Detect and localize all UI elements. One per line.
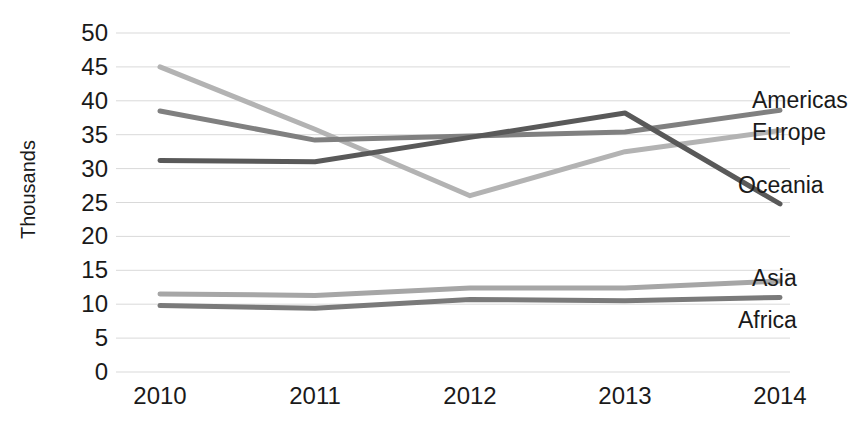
x-axis-tick-2012: 2012 (443, 382, 496, 410)
x-axis-tick-2011: 2011 (289, 382, 341, 410)
series-label-americas: Americas (752, 87, 848, 114)
series-label-asia: Asia (752, 265, 797, 292)
x-axis-tick-labels: 20102011201220132014 (0, 382, 840, 422)
x-axis-tick-2010: 2010 (133, 382, 186, 410)
x-axis-tick-2013: 2013 (598, 382, 651, 410)
series-label-oceania: Oceania (738, 172, 824, 199)
series-line-asia (160, 281, 780, 295)
series-label-europe: Europe (752, 119, 826, 146)
series-line-europe (160, 67, 780, 196)
gridlines (116, 33, 790, 372)
x-axis-tick-2014: 2014 (753, 382, 806, 410)
series-label-africa: Africa (738, 307, 797, 334)
series-line-africa (160, 297, 780, 308)
